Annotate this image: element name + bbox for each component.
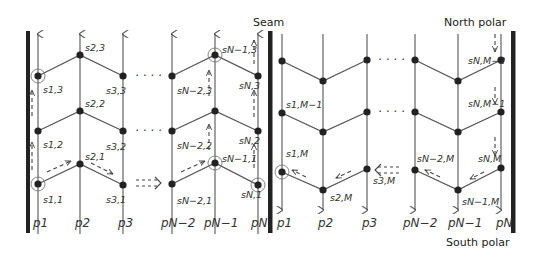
node-label: s2,1 <box>85 151 105 162</box>
left-dashed-arrows <box>32 40 254 174</box>
column-label: p2 <box>317 216 333 230</box>
seam-bar <box>268 31 273 233</box>
node-label: sN−2,2 <box>177 140 212 151</box>
node-label: sN−1,1 <box>222 153 257 164</box>
seam-title: Seam <box>253 16 284 29</box>
ellipsis: · · · · <box>135 69 162 83</box>
column-label: pN−2 <box>160 216 195 230</box>
right-boundary-bar <box>511 31 516 233</box>
column-label: pN−1 <box>203 216 238 230</box>
left-ellipses: · · · · · · · · <box>135 69 162 138</box>
node-label: s1,M <box>286 148 308 159</box>
ellipsis: · · · · <box>378 105 405 119</box>
node-label: sN,3 <box>239 80 260 91</box>
column-label: pN <box>495 216 513 230</box>
left-panel: · · · · · · · · s1,1 s2,1 s3,1 s1,2 s2,2… <box>26 31 268 234</box>
left-column-labels: p1 p2 p3 pN−2 pN−1 pN <box>32 216 268 230</box>
node-label: sN−1,3 <box>222 44 257 55</box>
node-label: s3,2 <box>106 141 126 152</box>
right-node-labels: s1,M−1 s1,M s2,M s3,M sN−2,M sN−1,M sN,M… <box>286 55 505 207</box>
node-label: s1,M−1 <box>286 99 322 110</box>
column-label: p2 <box>74 216 90 230</box>
ellipsis: · · · · <box>378 53 405 67</box>
node-label: sN,M−1 <box>468 98 505 109</box>
south-polar-title: South polar <box>446 236 510 249</box>
node-label: s2,3 <box>85 42 105 53</box>
right-v-edges <box>282 60 501 190</box>
right-ellipses: · · · · · · · · <box>378 53 405 119</box>
node-label: s1,1 <box>43 194 63 205</box>
node-label: s2,M <box>330 192 352 203</box>
north-polar-title: North polar <box>444 16 507 29</box>
node-label: sN,M <box>478 153 501 164</box>
node-label: sN,1 <box>241 189 262 200</box>
right-panel: · · · · · · · · s1,M−1 s1,M s2,M s3,M sN… <box>275 16 516 249</box>
right-column-labels: p1 p2 p3 pN−2 pN−1 pN <box>276 216 513 230</box>
node-label: s3,M <box>373 175 395 186</box>
node-label: s2,2 <box>85 98 105 109</box>
column-label: p1 <box>276 216 292 230</box>
lattice-diagram: · · · · · · · · s1,1 s2,1 s3,1 s1,2 s2,2… <box>0 0 535 260</box>
node-label: s3,3 <box>106 85 126 96</box>
column-label: pN−2 <box>402 216 437 230</box>
node-label: sN−2,1 <box>177 195 212 206</box>
node-label: s1,3 <box>43 84 63 95</box>
node-label: sN,M−2 <box>468 55 505 66</box>
node-label: sN−2,M <box>417 153 454 164</box>
node-label: sN−2,3 <box>177 85 212 96</box>
column-label: p1 <box>32 216 48 230</box>
node-label: sN−1,M <box>462 196 499 207</box>
column-label: p3 <box>361 216 377 230</box>
node-label: s1,2 <box>43 139 63 150</box>
left-skip-arrow <box>136 177 161 189</box>
column-label: pN−1 <box>447 216 482 230</box>
diagram-root: · · · · · · · · s1,1 s2,1 s3,1 s1,2 s2,2… <box>0 0 535 260</box>
left-boundary-bar <box>26 31 30 233</box>
ellipsis: · · · · <box>135 124 162 138</box>
node-label: s3,1 <box>106 194 126 205</box>
node-label: sN,2 <box>239 135 260 146</box>
column-label: pN <box>250 216 268 230</box>
column-label: p3 <box>117 216 133 230</box>
